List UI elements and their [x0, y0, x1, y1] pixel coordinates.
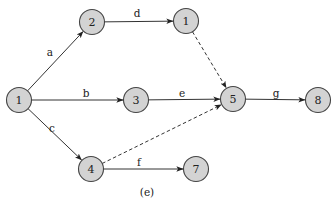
node-label: 1 — [16, 94, 23, 107]
edge-label-f: f — [137, 156, 142, 168]
node-n7: 7 — [184, 157, 209, 182]
network-diagram: adbegcf 12135847 (e) — [0, 0, 335, 206]
node-n1b: 1 — [174, 9, 199, 34]
edge-3-to-5-e — [148, 99, 220, 100]
edge-2-to-1-d — [104, 21, 173, 22]
node-n1: 1 — [7, 88, 32, 113]
node-label: 3 — [133, 94, 140, 107]
node-label: 7 — [193, 163, 200, 176]
edge-label-c: c — [49, 122, 55, 134]
edge-label-d: d — [134, 7, 141, 19]
node-label: 5 — [230, 93, 237, 106]
node-label: 8 — [315, 94, 322, 107]
node-n3: 3 — [124, 88, 149, 113]
node-n8: 8 — [306, 88, 331, 113]
edge-4-to-5-dummy — [102, 105, 221, 164]
edge-1-to-5-dummy — [192, 32, 226, 88]
edge-labels-layer: adbegcf — [47, 7, 280, 168]
node-label: 2 — [89, 16, 96, 29]
edge-label-a: a — [47, 46, 53, 58]
node-label: 4 — [88, 163, 95, 176]
node-n5: 5 — [221, 87, 246, 112]
diagram-caption: (e) — [140, 186, 154, 198]
edge-5-to-8-g — [245, 99, 305, 100]
node-label: 1 — [183, 15, 190, 28]
edge-1-to-4-c — [28, 109, 82, 160]
edge-label-e: e — [179, 87, 185, 99]
edges-layer — [28, 21, 305, 169]
node-n4: 4 — [79, 157, 104, 182]
nodes-layer: 12135847 — [7, 9, 331, 182]
edge-label-b: b — [83, 87, 90, 99]
edge-label-g: g — [273, 87, 280, 99]
node-n2: 2 — [80, 10, 105, 35]
edge-1-to-2-a — [28, 31, 84, 90]
